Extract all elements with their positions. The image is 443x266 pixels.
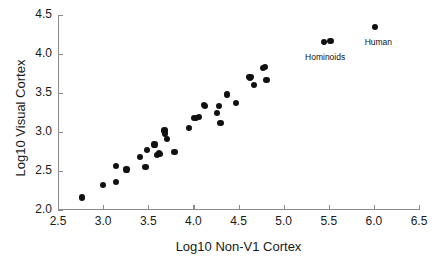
y-tick-label: 2.0 — [18, 202, 52, 216]
x-tick-label: 3.5 — [128, 214, 168, 228]
y-tick-mark — [58, 15, 63, 16]
x-tick-label: 5.0 — [264, 214, 304, 228]
data-point — [372, 24, 378, 30]
data-point — [248, 74, 254, 80]
x-tick-mark — [239, 205, 240, 210]
x-axis-label: Log10 Non-V1 Cortex — [58, 239, 419, 254]
data-point — [327, 38, 333, 44]
y-axis-label: Log10 Visual Cortex — [10, 13, 32, 223]
y-tick-label: 3.0 — [18, 124, 52, 138]
scatter-plot-figure: Log10 Visual Cortex 2.53.03.54.04.55.05.… — [0, 0, 443, 266]
y-tick-mark — [58, 93, 63, 94]
data-point — [224, 91, 230, 97]
y-tick-mark — [58, 54, 63, 55]
point-annotation: Hominoids — [305, 52, 345, 62]
x-tick-mark — [329, 205, 330, 210]
data-point — [233, 100, 239, 106]
y-tick-mark — [58, 171, 63, 172]
y-tick-label: 3.5 — [18, 85, 52, 99]
data-point — [263, 77, 269, 83]
y-tick-mark — [58, 132, 63, 133]
data-point — [157, 151, 163, 157]
data-point — [113, 179, 119, 185]
y-tick-label: 4.5 — [18, 7, 52, 21]
x-tick-label: 6.5 — [399, 214, 439, 228]
x-tick-mark — [419, 205, 420, 210]
x-tick-mark — [284, 205, 285, 210]
x-tick-mark — [374, 205, 375, 210]
x-tick-mark — [148, 205, 149, 210]
x-tick-mark — [193, 205, 194, 210]
data-point — [123, 166, 129, 172]
x-tick-label: 4.5 — [219, 214, 259, 228]
y-tick-mark — [58, 210, 63, 211]
x-tick-label: 4.0 — [173, 214, 213, 228]
x-tick-mark — [103, 205, 104, 210]
x-tick-label: 6.0 — [354, 214, 394, 228]
y-tick-label: 4.0 — [18, 46, 52, 60]
x-tick-label: 2.5 — [38, 214, 78, 228]
data-point — [142, 164, 148, 170]
x-tick-label: 5.5 — [309, 214, 349, 228]
data-point — [217, 120, 223, 126]
data-point — [151, 141, 157, 147]
y-tick-label: 2.5 — [18, 163, 52, 177]
x-tick-label: 3.0 — [83, 214, 123, 228]
point-annotation: Human — [365, 37, 392, 47]
data-point — [171, 149, 177, 155]
